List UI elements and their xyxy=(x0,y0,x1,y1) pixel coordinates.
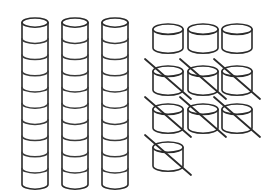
stack-1-body xyxy=(22,23,48,190)
cylinder-r3c3-top-ellipse xyxy=(222,104,252,114)
cylinder-stacks-group xyxy=(22,18,128,189)
cylinder-r1c2-top-ellipse xyxy=(188,24,218,34)
cylinder-figure-svg xyxy=(0,0,264,196)
cylinder-r4c1 xyxy=(145,135,191,175)
cylinder-r3c1 xyxy=(145,97,191,137)
stack-3-top-ellipse xyxy=(102,18,128,27)
cylinder-r1c2 xyxy=(188,24,218,53)
cylinder-r1c3-top-ellipse xyxy=(222,24,252,34)
stack-1-top-ellipse xyxy=(22,18,48,27)
figure-canvas xyxy=(0,0,264,196)
cylinder-r2c2-top-ellipse xyxy=(188,66,218,76)
cylinder-r1c3 xyxy=(222,24,252,53)
stack-3-body xyxy=(102,23,128,190)
cylinder-r3c3 xyxy=(214,97,260,137)
single-cylinders-group xyxy=(145,24,260,175)
cylinder-r2c3 xyxy=(214,59,260,99)
cylinder-r4c1-top-ellipse xyxy=(153,142,183,152)
cylinder-r2c1-top-ellipse xyxy=(153,66,183,76)
cylinder-r1c1 xyxy=(153,24,183,53)
cylinder-r3c1-top-ellipse xyxy=(153,104,183,114)
stack-3 xyxy=(102,18,128,189)
cylinder-r3c2 xyxy=(180,97,226,137)
stack-2-top-ellipse xyxy=(62,18,88,27)
cylinder-r1c1-top-ellipse xyxy=(153,24,183,34)
cylinder-r2c1 xyxy=(145,59,191,99)
cylinder-r3c2-top-ellipse xyxy=(188,104,218,114)
cylinder-r2c2 xyxy=(180,59,226,99)
stack-2 xyxy=(62,18,88,189)
cylinder-r2c3-top-ellipse xyxy=(222,66,252,76)
stack-2-body xyxy=(62,23,88,190)
stack-1 xyxy=(22,18,48,189)
